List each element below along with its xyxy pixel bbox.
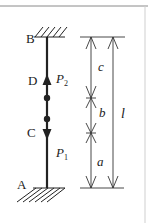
label-a: A <box>17 177 27 192</box>
joint-upper <box>44 95 50 101</box>
dim-label-a: a <box>97 154 104 169</box>
svg-text:P: P <box>55 71 64 86</box>
force-p2-arrow-up-icon <box>43 74 52 85</box>
label-c: C <box>27 125 36 140</box>
dim-label-l: l <box>121 106 125 121</box>
label-d: D <box>28 73 37 88</box>
svg-text:P: P <box>55 145 64 160</box>
dim-label-c: c <box>98 59 104 74</box>
svg-text:2: 2 <box>64 79 68 88</box>
label-p1: P 1 <box>55 145 68 162</box>
joint-c <box>44 116 50 122</box>
svg-text:1: 1 <box>64 153 68 162</box>
dim-line-total <box>108 37 118 188</box>
dim-label-b: b <box>99 105 106 120</box>
label-p2: P 2 <box>55 71 68 88</box>
label-b: B <box>26 31 35 46</box>
fixed-support-top <box>34 27 67 37</box>
bar-diagram: B D C A P 2 P 1 c b a l <box>0 0 148 223</box>
force-p1-arrow-down-icon <box>43 129 52 140</box>
dim-line-segments <box>86 37 96 188</box>
